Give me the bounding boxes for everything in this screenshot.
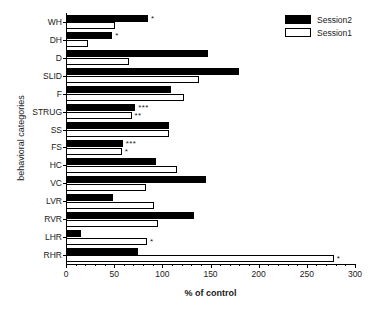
x-axis-major-tick xyxy=(66,264,67,268)
y-axis-tick-label: VC xyxy=(50,178,62,188)
bar-session2-slid xyxy=(66,68,239,75)
bar-session2-strug xyxy=(66,104,135,111)
chart-category-row: F xyxy=(66,85,355,103)
x-axis-minor-tick xyxy=(143,264,144,266)
y-axis-tick-label: RHR xyxy=(44,250,62,260)
significance-marker: ** xyxy=(135,112,142,119)
x-axis-minor-tick xyxy=(345,264,346,266)
y-axis-tick-label: RVR xyxy=(44,214,62,224)
significance-marker: * xyxy=(115,32,118,39)
x-axis-major-tick xyxy=(114,264,115,268)
chart-category-row: SS xyxy=(66,121,355,139)
x-axis-minor-tick xyxy=(172,264,173,266)
x-axis-tick-label: 150 xyxy=(203,269,217,279)
chart-category-row: FS**** xyxy=(66,139,355,157)
legend: Session2 Session1 xyxy=(285,14,381,40)
x-axis-minor-tick xyxy=(268,264,269,266)
bar-session1-d xyxy=(66,58,129,65)
bar-session2-dh xyxy=(66,32,112,39)
x-axis-major-tick xyxy=(259,264,260,268)
x-axis-major-tick xyxy=(355,264,356,268)
bar-session1-lhr xyxy=(66,238,147,245)
x-axis-minor-tick xyxy=(191,264,192,266)
x-axis-major-tick xyxy=(162,264,163,268)
chart-category-row: SLID xyxy=(66,67,355,85)
x-axis-tick-label: 0 xyxy=(64,269,69,279)
y-axis-title: behavioral categories xyxy=(16,48,26,228)
bar-session1-f xyxy=(66,94,184,101)
x-axis-tick-label: 300 xyxy=(348,269,362,279)
y-axis-tick-label: HC xyxy=(50,160,62,170)
x-axis-minor-tick xyxy=(105,264,106,266)
bar-session2-wh xyxy=(66,15,148,22)
y-axis-tick-label: LVR xyxy=(46,196,62,206)
y-axis-tick-label: FS xyxy=(51,142,62,152)
bar-session2-rvr xyxy=(66,212,194,219)
chart-category-row: LVR xyxy=(66,192,355,210)
x-axis-minor-tick xyxy=(76,264,77,266)
y-axis-tick-label: SS xyxy=(51,125,62,135)
x-axis-title: % of control xyxy=(66,288,355,298)
significance-marker: * xyxy=(337,255,340,262)
legend-item: Session1 xyxy=(285,27,381,38)
chart-category-row: STRUG***** xyxy=(66,103,355,121)
x-axis-tick-label: 100 xyxy=(155,269,169,279)
bar-session1-strug xyxy=(66,112,132,119)
significance-marker: * xyxy=(151,15,154,22)
significance-marker: * xyxy=(125,148,128,155)
bar-session1-vc xyxy=(66,184,146,191)
bar-session2-ss xyxy=(66,122,169,129)
x-axis-tick-label: 50 xyxy=(109,269,118,279)
bar-session2-fs xyxy=(66,140,123,147)
x-axis-minor-tick xyxy=(153,264,154,266)
x-axis-tick-label: 200 xyxy=(252,269,266,279)
x-axis-minor-tick xyxy=(297,264,298,266)
legend-swatch-session1-icon xyxy=(285,28,311,37)
x-axis-minor-tick xyxy=(326,264,327,266)
x-axis-minor-tick xyxy=(239,264,240,266)
y-axis-tick-label: D xyxy=(56,53,62,63)
chart-category-row: HC xyxy=(66,156,355,174)
chart-category-row: RVR xyxy=(66,210,355,228)
legend-swatch-session2-icon xyxy=(285,15,311,24)
bar-session1-hc xyxy=(66,166,177,173)
x-axis-minor-tick xyxy=(85,264,86,266)
x-axis-tick-label: 250 xyxy=(300,269,314,279)
bar-session1-slid xyxy=(66,76,199,83)
x-axis-minor-tick xyxy=(230,264,231,266)
x-axis-minor-tick xyxy=(336,264,337,266)
chart-category-row: VC xyxy=(66,174,355,192)
x-axis-minor-tick xyxy=(278,264,279,266)
x-axis-minor-tick xyxy=(316,264,317,266)
bar-session2-lhr xyxy=(66,230,81,237)
bar-session2-lvr xyxy=(66,194,113,201)
chart-category-row: D xyxy=(66,49,355,67)
x-axis-minor-tick xyxy=(201,264,202,266)
x-axis-major-tick xyxy=(211,264,212,268)
bar-session2-vc xyxy=(66,176,206,183)
y-axis-tick-label: STRUG xyxy=(32,107,62,117)
bar-session2-d xyxy=(66,50,208,57)
x-axis-minor-tick xyxy=(220,264,221,266)
bar-session1-fs xyxy=(66,148,122,155)
x-axis-minor-tick xyxy=(249,264,250,266)
y-axis-tick-label: SLID xyxy=(43,71,62,81)
legend-label-session2: Session2 xyxy=(317,15,352,25)
chart-category-row: RHR* xyxy=(66,246,355,264)
x-axis-minor-tick xyxy=(288,264,289,266)
x-axis-minor-tick xyxy=(182,264,183,266)
bar-session1-rhr xyxy=(66,255,334,262)
legend-item: Session2 xyxy=(285,14,381,25)
x-axis-minor-tick xyxy=(124,264,125,266)
y-axis-tick-label: DH xyxy=(50,35,62,45)
bar-session1-lvr xyxy=(66,202,154,209)
bar-session1-wh xyxy=(66,22,115,29)
significance-marker: * xyxy=(150,238,153,245)
bar-session2-f xyxy=(66,86,171,93)
bar-session1-rvr xyxy=(66,220,158,227)
bar-chart-figure: behavioral categories WH*DH*DSLIDFSTRUG*… xyxy=(0,0,387,313)
y-axis-tick-label: LHR xyxy=(45,232,62,242)
legend-label-session1: Session1 xyxy=(317,28,352,38)
plot-area: WH*DH*DSLIDFSTRUG*****SSFS****HCVCLVRRVR… xyxy=(66,13,355,264)
bar-session2-rhr xyxy=(66,248,138,255)
